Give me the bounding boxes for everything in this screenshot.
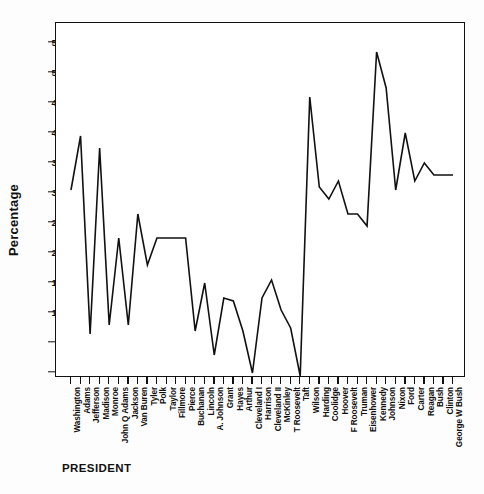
x-axis-tick-label: T Roosevelt xyxy=(293,387,302,432)
x-axis-tick-label: Lincoln xyxy=(207,387,216,415)
x-axis-tick-label: John Q Adams xyxy=(121,387,130,443)
x-axis-tick-label: Madison xyxy=(102,387,111,420)
x-axis-tick-mark xyxy=(404,377,405,384)
x-axis-tick-label: Cleveland I xyxy=(255,387,264,429)
x-axis-tick-mark xyxy=(232,377,233,384)
x-axis-tick-mark xyxy=(204,377,205,384)
x-axis-tick-label: Washington xyxy=(73,387,82,433)
x-axis-tick-label: Van Buren xyxy=(140,387,149,427)
x-axis-tick-label: Truman xyxy=(360,387,369,416)
x-axis-tick-mark xyxy=(261,377,262,384)
plot-area xyxy=(55,22,465,377)
x-axis-tick-mark xyxy=(452,377,453,384)
y-axis-tick-mark xyxy=(48,41,55,42)
x-axis-tick-label: Taylor xyxy=(169,387,178,410)
x-axis-tick-label: Eisenhower xyxy=(369,387,378,432)
x-axis-title: PRESIDENT xyxy=(62,462,131,474)
x-axis-tick-mark xyxy=(385,377,386,384)
y-axis-tick-mark xyxy=(48,191,55,192)
x-axis-tick-label: Grant xyxy=(226,387,235,408)
x-axis-tick-mark xyxy=(166,377,167,384)
x-axis-tick-mark xyxy=(290,377,291,384)
x-axis-tick-mark xyxy=(146,377,147,384)
x-axis-tick-label: Buchanan xyxy=(197,387,206,426)
y-axis-tick-mark xyxy=(48,161,55,162)
x-axis-tick-mark xyxy=(118,377,119,384)
y-axis-tick-mark xyxy=(48,281,55,282)
x-axis-tick-mark xyxy=(223,377,224,384)
x-axis-tick-label: Harrison xyxy=(264,387,273,420)
x-axis-tick-label: Wilson xyxy=(312,387,321,413)
x-axis-tick-label: Adams xyxy=(83,387,92,414)
x-axis-tick-mark xyxy=(213,377,214,384)
x-axis-tick-label: Arthur xyxy=(245,387,254,411)
x-axis-tick-label: Coolidge xyxy=(331,387,340,421)
x-axis-tick-mark xyxy=(414,377,415,384)
x-axis-tick-label: Hoover xyxy=(341,387,350,415)
x-axis-tick-label: George W Bush xyxy=(455,387,464,447)
y-axis-tick-mark xyxy=(48,341,55,342)
x-axis-tick-label: Bush xyxy=(436,387,445,407)
x-axis-tick-mark xyxy=(280,377,281,384)
x-axis-tick-label: Cleveland II xyxy=(274,387,283,431)
x-axis-tick-mark xyxy=(99,377,100,384)
line-series-percentage xyxy=(56,23,466,378)
x-axis-tick-label: F Roosevelt xyxy=(350,387,359,432)
y-axis-tick-mark xyxy=(48,251,55,252)
x-axis-tick-label: Hayes xyxy=(236,387,245,411)
x-axis-tick-label: Carter xyxy=(417,387,426,411)
x-axis-tick-mark xyxy=(299,377,300,384)
x-axis-tick-label: Fillmore xyxy=(178,387,187,418)
x-axis-tick-mark xyxy=(156,377,157,384)
x-axis-tick-mark xyxy=(423,377,424,384)
x-axis-tick-label: Reagan xyxy=(427,387,436,416)
x-axis-tick-label: Ford xyxy=(407,387,416,405)
x-axis-tick-label: Kennedy xyxy=(379,387,388,421)
y-axis-tick-mark xyxy=(48,71,55,72)
x-axis-tick-mark xyxy=(271,377,272,384)
x-axis-tick-mark xyxy=(70,377,71,384)
x-axis-tick-mark xyxy=(175,377,176,384)
x-axis-tick-label: Clinton xyxy=(446,387,455,415)
x-axis-tick-label: Taft xyxy=(302,387,311,401)
x-axis-tick-mark xyxy=(328,377,329,384)
x-axis-tick-label: A. Johnson xyxy=(216,387,225,431)
y-axis-tick-mark xyxy=(48,101,55,102)
x-axis-tick-mark xyxy=(366,377,367,384)
x-axis-tick-label: Nixon xyxy=(398,387,407,409)
x-axis-tick-mark xyxy=(433,377,434,384)
chart-figure: Percentage 0510152025303540455055 Washin… xyxy=(0,0,484,494)
y-axis-tick-mark xyxy=(48,311,55,312)
x-axis-tick-label: Jefferson xyxy=(92,387,101,423)
x-axis-tick-mark xyxy=(185,377,186,384)
x-axis-tick-label: Pierce xyxy=(188,387,197,411)
x-axis-tick-mark xyxy=(376,377,377,384)
x-axis-tick-label: Johnson xyxy=(388,387,397,420)
x-axis-tick-mark xyxy=(357,377,358,384)
x-axis-tick-label: Monroe xyxy=(111,387,120,416)
y-axis-title: Percentage xyxy=(6,150,21,290)
x-axis-tick-mark xyxy=(194,377,195,384)
x-axis-tick-mark xyxy=(127,377,128,384)
x-axis-tick-label: McKinley xyxy=(283,387,292,422)
x-axis-tick-mark xyxy=(251,377,252,384)
x-axis-tick-mark xyxy=(337,377,338,384)
x-axis-tick-label: Polk xyxy=(159,387,168,404)
y-axis-tick-mark xyxy=(48,371,55,372)
x-axis-tick-mark xyxy=(108,377,109,384)
x-axis-tick-mark xyxy=(347,377,348,384)
x-axis-tick-mark xyxy=(80,377,81,384)
x-axis-tick-mark xyxy=(395,377,396,384)
x-axis-tick-label: Jackson xyxy=(131,387,140,419)
x-axis-tick-mark xyxy=(318,377,319,384)
x-axis-tick-mark xyxy=(89,377,90,384)
x-axis-tick-label: Harding xyxy=(322,387,331,417)
x-axis-tick-mark xyxy=(309,377,310,384)
x-axis-tick-mark xyxy=(442,377,443,384)
x-axis-tick-mark xyxy=(242,377,243,384)
y-axis-tick-mark xyxy=(48,221,55,222)
y-axis-tick-mark xyxy=(48,131,55,132)
x-axis-tick-label: Tyler xyxy=(150,387,159,405)
x-axis-tick-mark xyxy=(137,377,138,384)
